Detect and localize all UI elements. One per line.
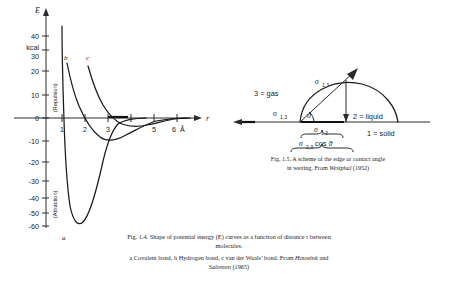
y-tick-20: 20 xyxy=(31,67,39,76)
y-axis-arrowhead xyxy=(43,8,49,16)
fig15-caption-line-2: in wetting. From Westphal (1952) xyxy=(228,164,428,173)
solid-label: 1 = solid xyxy=(367,129,395,138)
y-tick-m60: -60 xyxy=(29,222,39,231)
svg-text:σ: σ xyxy=(315,77,319,86)
figure-page: E r 40 kcal 30 20 10 xyxy=(0,0,457,289)
x-tick-3: 3 xyxy=(106,125,110,134)
curve-label-b: b xyxy=(64,54,68,62)
y-tick-m10: -10 xyxy=(29,137,39,146)
x-axis-symbol: r xyxy=(206,114,210,123)
svg-text:1,3: 1,3 xyxy=(280,114,287,120)
curve-label-c: c xyxy=(86,54,90,62)
svg-text:1,2: 1,2 xyxy=(321,130,328,136)
x-tick-6: 6 xyxy=(172,125,176,134)
sigma13-left-arrowhead xyxy=(233,119,242,125)
figure-1-4: E r 40 kcal 30 20 10 xyxy=(0,0,232,232)
caption-year: (1965) xyxy=(231,263,249,270)
caption-line-4: Salomon (1965) xyxy=(84,262,374,271)
caption-bonds-text: a Covalent bond, b Hydrogen bond, c van … xyxy=(130,254,296,261)
x-tick-1: 1 xyxy=(60,125,64,134)
x-tick-2: 2 xyxy=(83,125,87,134)
liquid-droplet-arc xyxy=(300,83,398,122)
x-tick-5: 5 xyxy=(152,125,156,134)
y-tick-m40: -40 xyxy=(29,194,39,203)
caption-author-1: Houwink xyxy=(295,254,318,261)
y-tick-30: 30 xyxy=(31,52,39,61)
y-tick-m50: -50 xyxy=(29,209,39,218)
svg-text:2,3: 2,3 xyxy=(306,144,313,150)
y-tick-0: 0 xyxy=(35,114,39,123)
figure-1-5-caption: Fig. 1.5. A scheme of the edge or contac… xyxy=(228,155,428,173)
sigma13-tangent-arrowhead xyxy=(347,68,358,80)
fig15-caption-author: Westphal xyxy=(329,165,351,171)
sigma13-tangent-label: σ 1,3 xyxy=(315,77,329,88)
svg-text:cos ϑ: cos ϑ xyxy=(315,139,333,148)
svg-text:σ: σ xyxy=(273,109,277,118)
gas-label: 3 = gas xyxy=(254,89,279,98)
liquid-label: 2 = liquid xyxy=(353,112,383,121)
caption-line-3: a Covalent bond, b Hydrogen bond, c van … xyxy=(84,253,374,262)
vertical-projection-arrowhead xyxy=(343,114,349,122)
fig15-caption-line-1: Fig. 1.5. A scheme of the edge or contac… xyxy=(228,155,428,164)
x-axis-arrowhead xyxy=(194,115,202,121)
fig15-caption-from: in wetting. From xyxy=(287,165,329,171)
attraction-label: (Attraction) xyxy=(52,191,58,218)
fig15-caption-year: (1952) xyxy=(351,165,369,171)
y-tick-10: 10 xyxy=(31,91,39,100)
repulsion-label: (Repulsion) xyxy=(52,83,58,112)
y-tick-40: 40 xyxy=(31,32,39,41)
svg-text:σ: σ xyxy=(314,125,318,134)
figure-1-5: 3 = gas 2 = liquid 1 = solid σ 1,3 σ 1,3… xyxy=(225,58,457,158)
curve-a-covalent xyxy=(62,26,146,224)
svg-text:1,3: 1,3 xyxy=(322,82,329,88)
figure-1-4-caption: Fig. 1.4. Shape of potential energy (E) … xyxy=(84,232,374,272)
curve-c-vanderwaals xyxy=(88,66,190,126)
y-tick-m20: -20 xyxy=(29,158,39,167)
svg-text:σ: σ xyxy=(299,139,303,148)
caption-line-2: molecules. xyxy=(84,241,374,250)
y-unit: kcal xyxy=(26,43,39,52)
y-tick-m30: -30 xyxy=(29,177,39,186)
caption-and: and xyxy=(318,254,329,261)
caption-line-1: Fig. 1.4. Shape of potential energy (E) … xyxy=(84,232,374,241)
x-unit-angstrom: Å xyxy=(180,125,185,134)
y-axis-symbol: E xyxy=(34,6,40,15)
contact-angle-label: ϑ xyxy=(307,111,312,120)
caption-author-2: Salomon xyxy=(209,263,231,270)
curve-label-a: a xyxy=(62,234,66,242)
sigma13-left-label: σ 1,3 xyxy=(273,109,287,120)
